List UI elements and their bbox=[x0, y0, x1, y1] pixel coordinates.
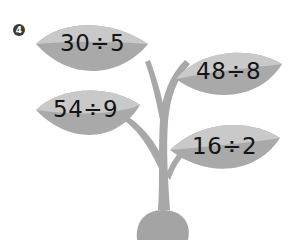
leaf-expression-top-right: 48÷8 bbox=[196, 58, 261, 84]
pot bbox=[137, 210, 189, 240]
division-plant-diagram: 4 30÷5 48÷8 54÷9 16÷2 bbox=[0, 0, 304, 245]
leaf-expression-bottom-left: 54÷9 bbox=[53, 96, 118, 122]
plant-illustration bbox=[0, 0, 304, 245]
leaf-expression-bottom-right: 16÷2 bbox=[192, 133, 257, 159]
problem-number-badge: 4 bbox=[13, 24, 25, 36]
leaf-expression-top-left: 30÷5 bbox=[60, 30, 125, 56]
